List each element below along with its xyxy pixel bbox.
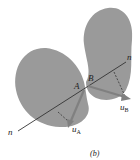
velocity-a-label: uA [72, 125, 81, 135]
figure-caption: (b) [90, 150, 99, 158]
arrowhead-b [121, 93, 131, 101]
normal-label-right: n [127, 53, 132, 62]
diagram-canvas [0, 0, 140, 160]
velocity-b-label: uB [120, 103, 129, 113]
point-a-label: A [74, 82, 80, 91]
point-b-label: B [88, 74, 94, 83]
normal-label-left: n [8, 128, 13, 137]
